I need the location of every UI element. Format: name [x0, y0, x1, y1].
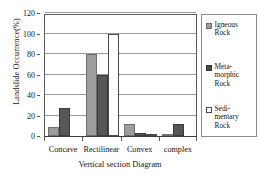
legend-item[interactable]: Meta-morphicRock — [206, 63, 256, 88]
x-axis-category-label: complex — [164, 145, 192, 154]
legend-swatch-icon — [206, 23, 212, 29]
bars-layer — [45, 15, 196, 136]
bar — [162, 134, 173, 136]
legend-label: Sedi-mentaryRock — [215, 105, 239, 130]
legend-swatch-icon — [206, 65, 212, 71]
bar-group — [122, 15, 160, 136]
legend-label-line: Rock — [215, 122, 239, 130]
x-axis-title: Vertical section Diagram — [30, 160, 210, 169]
legend-label: Meta-morphicRock — [215, 63, 240, 88]
legend-swatch-icon — [206, 107, 212, 113]
y-tick-mark — [37, 34, 40, 35]
x-tick-mark — [196, 137, 197, 141]
x-axis-ticks — [44, 137, 197, 142]
x-axis-category-label: Rectilinear — [83, 145, 119, 154]
y-tick-mark — [37, 136, 40, 137]
bar-group — [83, 15, 121, 136]
bar — [86, 54, 97, 136]
bar — [135, 133, 146, 136]
x-tick-mark — [44, 137, 45, 141]
chart-legend: IgneousRockMeta-morphicRockSedi-mentaryR… — [201, 14, 257, 137]
legend-label-line: Rock — [215, 29, 238, 37]
bar — [146, 134, 157, 136]
legend-item[interactable]: Sedi-mentaryRock — [206, 105, 256, 130]
bar — [59, 108, 70, 136]
y-tick-label: 120 — [23, 10, 35, 18]
plot-area — [44, 14, 197, 137]
x-tick-mark — [82, 137, 83, 141]
y-tick-mark — [37, 95, 40, 96]
bar-group — [45, 15, 83, 136]
bar — [108, 34, 119, 137]
y-tick-mark — [37, 116, 40, 117]
bar — [173, 124, 184, 136]
y-tick-label: 60 — [27, 72, 35, 80]
bar — [124, 124, 135, 136]
y-tick-mark — [37, 54, 40, 55]
bar-group — [160, 15, 198, 136]
x-tick-mark — [159, 137, 160, 141]
bar — [48, 127, 59, 136]
legend-label: IgneousRock — [215, 21, 238, 38]
gridline — [45, 12, 196, 13]
y-tick-mark — [37, 75, 40, 76]
y-axis-ticks: 020406080100120 — [0, 14, 40, 137]
y-tick-label: 20 — [27, 113, 35, 121]
x-axis-labels: ConcaveRectilinearConvexcomplex — [30, 145, 210, 157]
x-tick-mark — [121, 137, 122, 141]
y-tick-label: 100 — [23, 31, 35, 39]
bar — [97, 75, 108, 137]
y-tick-label: 80 — [27, 51, 35, 59]
legend-label-line: Rock — [215, 80, 240, 88]
bar-chart: Landslide Occurrence(%) 020406080100120 … — [0, 0, 259, 183]
x-axis-category-label: Convex — [127, 145, 152, 154]
y-tick-label: 40 — [27, 92, 35, 100]
x-axis-category-label: Concave — [49, 145, 78, 154]
y-tick-mark — [37, 13, 40, 14]
legend-item[interactable]: IgneousRock — [206, 21, 256, 38]
y-tick-label: 0 — [31, 133, 35, 141]
